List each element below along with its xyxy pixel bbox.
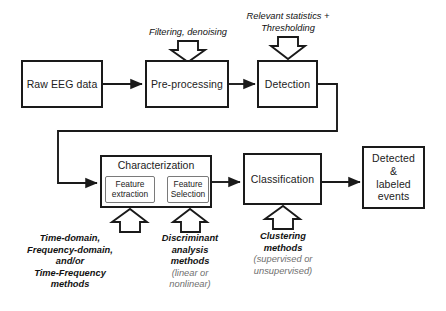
flowchart-diagram: Raw EEG data Pre-processing Detection Ch… [0,0,446,311]
node-feature-selection-label: FeatureSelection [171,180,205,199]
annotation-classification-sub: (supervised orunsupervised) [235,254,331,277]
block-arrow-into-feature-extraction [112,209,147,232]
annotation-feature-selection: Discriminantanalysismethods (linear orno… [154,233,226,291]
node-detection[interactable]: Detection [257,60,318,108]
annotation-feature-extraction-main: Time-domain,Frequency-domain,and/orTime-… [27,233,113,289]
node-classification-label: Classification [251,173,314,186]
node-classification[interactable]: Classification [243,153,322,205]
annotation-classification-main: Clusteringmethods [260,231,306,253]
node-feature-extraction-label: Featureextraction [112,180,148,199]
node-raw-eeg-data-label: Raw EEG data [27,78,98,91]
node-detected-labeled-events-label: Detected&labeledevents [372,152,415,203]
annotation-feature-selection-sub: (linear ornonlinear) [154,268,226,291]
annotation-classification: Clusteringmethods (supervised orunsuperv… [235,231,331,277]
annotation-detection: Relevant statistics +Thresholding [225,11,351,34]
block-arrow-into-preprocessing [171,41,205,62]
node-characterization-label: Characterization [100,159,212,171]
node-detected-labeled-events[interactable]: Detected&labeledevents [362,146,425,209]
annotation-feature-extraction: Time-domain,Frequency-domain,and/orTime-… [2,233,138,291]
node-raw-eeg-data[interactable]: Raw EEG data [21,60,103,108]
block-arrow-into-detection [271,37,305,59]
node-feature-extraction[interactable]: Featureextraction [105,176,155,203]
node-detection-label: Detection [265,78,310,91]
node-preprocessing-label: Pre-processing [151,78,223,91]
block-arrow-into-classification [265,206,300,229]
node-preprocessing[interactable]: Pre-processing [145,60,229,108]
node-feature-selection[interactable]: FeatureSelection [167,176,209,203]
block-arrow-into-feature-selection [173,209,207,232]
annotation-feature-selection-main: Discriminantanalysismethods [162,233,218,266]
